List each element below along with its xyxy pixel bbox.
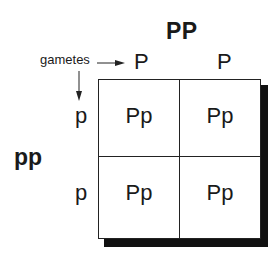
gamete-left-2: p (75, 180, 87, 206)
cell-r1-c1: Pp (99, 103, 179, 129)
cell-r1-c2: Pp (180, 103, 260, 129)
gamete-top-1: P (134, 49, 149, 75)
grid-divider-horizontal (98, 156, 261, 157)
gametes-label: gametes (40, 52, 90, 67)
parent-left-genotype: pp (14, 144, 42, 171)
cell-r2-c2: Pp (180, 180, 260, 206)
arrow-down-icon (76, 71, 84, 103)
cell-r2-c1: Pp (99, 180, 179, 206)
gamete-top-2: P (217, 49, 232, 75)
parent-top-genotype: PP (166, 18, 198, 45)
gamete-left-1: p (75, 103, 87, 129)
arrow-right-icon (97, 60, 127, 68)
